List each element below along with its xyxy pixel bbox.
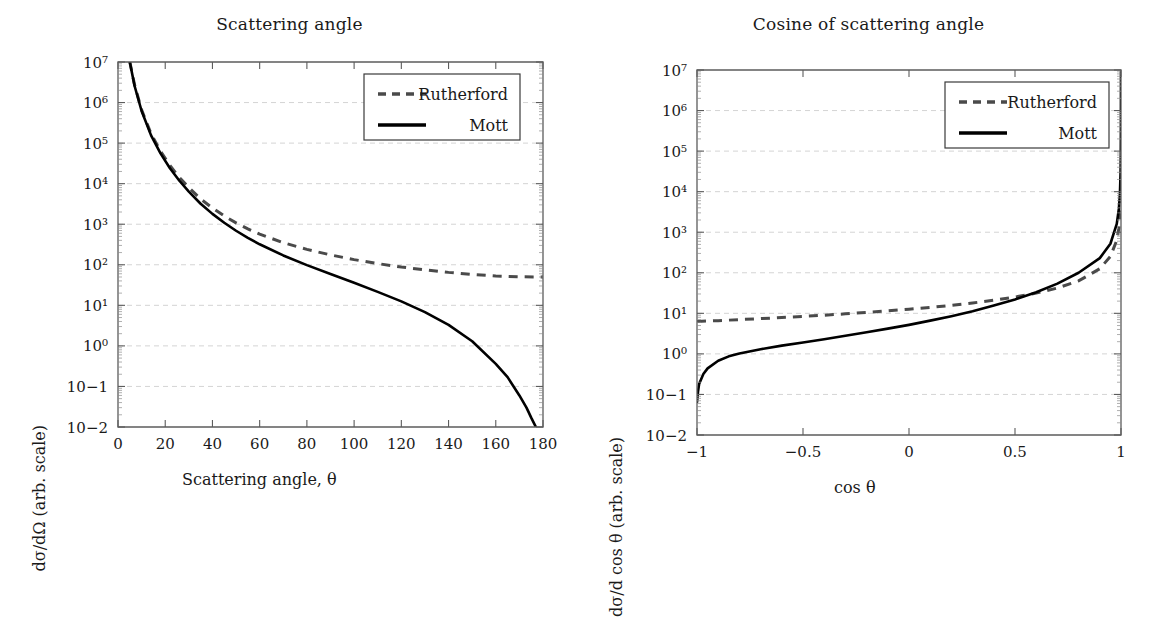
y-tick-label: 10⁷ — [662, 62, 687, 80]
y-axis-label-right: dσ/d cos θ (arb. scale) — [607, 437, 626, 617]
x-tick-label: 0 — [113, 435, 123, 453]
gridlines — [118, 103, 543, 387]
y-tick-label: 10⁴ — [83, 175, 108, 193]
x-tick-label: 180 — [529, 435, 558, 453]
gridlines — [697, 111, 1121, 395]
panel-cosine-scattering-angle: Cosine of scattering angle 10−210−110⁰10… — [579, 0, 1158, 521]
y-tick-label: 10⁰ — [662, 345, 687, 363]
y-tick-label: 10−2 — [646, 427, 687, 445]
y-tick-label: 10⁵ — [83, 135, 108, 153]
legend: RutherfordMott — [364, 74, 520, 140]
plot-left: 10−210−110⁰10¹10²10³10⁴10⁵10⁶10⁷02040608… — [0, 0, 579, 521]
y-tick-label: 10−2 — [67, 419, 108, 437]
y-tick-label: 10¹ — [662, 305, 687, 323]
x-axis-label-left: Scattering angle, θ — [182, 470, 337, 489]
x-tick-label: −1 — [686, 443, 708, 461]
curve-rutherford — [697, 176, 1121, 322]
y-tick-label: 10³ — [83, 216, 108, 234]
x-tick-label: 140 — [434, 435, 463, 453]
x-tick-label: 80 — [297, 435, 316, 453]
panel-scattering-angle: Scattering angle 10−210−110⁰10¹10²10³10⁴… — [0, 0, 579, 521]
x-tick-label: 40 — [203, 435, 222, 453]
plot-right: 10−210−110⁰10¹10²10³10⁴10⁵10⁶10⁷−1−0.500… — [579, 0, 1158, 521]
legend-label-rutherford: Rutherford — [1007, 93, 1097, 112]
x-tick-label: 60 — [250, 435, 269, 453]
y-tick-label: 10³ — [662, 224, 687, 242]
y-tick-label: 10⁷ — [83, 54, 108, 72]
y-tick-label: 10² — [662, 264, 687, 282]
legend-label-mott: Mott — [1058, 124, 1097, 143]
y-tick-label: 10⁴ — [662, 183, 687, 201]
x-tick-label: 1 — [1116, 443, 1126, 461]
x-tick-label: 0 — [904, 443, 914, 461]
y-axis-label-left: dσ/dΩ (arb. scale) — [30, 425, 49, 572]
y-tick-label: 10⁶ — [662, 102, 687, 120]
legend-label-rutherford: Rutherford — [418, 85, 508, 104]
x-tick-label: 0.5 — [1003, 443, 1027, 461]
y-tick-label: 10¹ — [83, 297, 108, 315]
legend: RutherfordMott — [945, 82, 1109, 148]
x-tick-label: 20 — [156, 435, 175, 453]
y-tick-label: 10⁵ — [662, 143, 687, 161]
x-tick-label: 120 — [387, 435, 416, 453]
legend-label-mott: Mott — [469, 116, 508, 135]
x-tick-label: −0.5 — [785, 443, 821, 461]
x-tick-label: 100 — [340, 435, 369, 453]
x-tick-label: 160 — [481, 435, 510, 453]
y-tick-label: 10−1 — [646, 386, 687, 404]
y-tick-label: 10−1 — [67, 378, 108, 396]
y-tick-label: 10⁶ — [83, 94, 108, 112]
y-tick-label: 10⁰ — [83, 337, 108, 355]
y-tick-label: 10² — [83, 256, 108, 274]
x-axis-label-right: cos θ — [834, 478, 876, 497]
